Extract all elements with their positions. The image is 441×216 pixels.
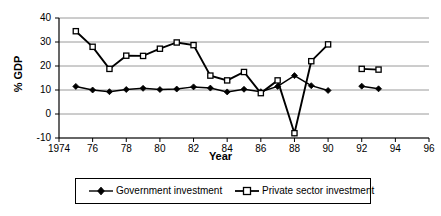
data-point <box>191 43 196 48</box>
series-line <box>76 31 328 133</box>
data-point <box>241 69 246 74</box>
legend-item-private: Private sector investment <box>234 183 374 199</box>
data-point <box>107 66 112 71</box>
data-point <box>73 83 79 89</box>
data-point <box>225 78 230 83</box>
data-point <box>191 84 197 90</box>
series-line <box>76 76 328 92</box>
data-point <box>325 42 330 47</box>
legend-label-government: Government investment <box>116 185 222 197</box>
data-point <box>258 91 263 96</box>
data-point <box>174 86 180 92</box>
chart-root: % GDP Year 403020100-10 1974767880828486… <box>0 0 441 216</box>
data-point <box>73 29 78 34</box>
data-point <box>124 53 129 58</box>
data-point <box>140 53 145 58</box>
data-point <box>123 87 129 93</box>
data-point <box>376 67 381 72</box>
data-point <box>309 59 314 64</box>
data-point <box>90 44 95 49</box>
data-point <box>174 40 179 45</box>
filled-diamond-icon <box>88 185 114 197</box>
data-point <box>241 86 247 92</box>
data-point <box>292 131 297 136</box>
legend-item-government: Government investment <box>88 183 222 199</box>
data-point <box>359 83 365 89</box>
data-point <box>90 87 96 93</box>
chart-legend: Government investment Private sector inv… <box>75 178 371 204</box>
line-chart: % GDP Year 403020100-10 1974767880828486… <box>0 0 441 216</box>
data-point <box>208 73 213 78</box>
data-point <box>359 66 364 71</box>
legend-label-private: Private sector investment <box>262 185 374 197</box>
data-point <box>275 78 280 83</box>
data-point <box>157 46 162 51</box>
data-point <box>376 86 382 92</box>
open-square-icon <box>234 185 260 197</box>
data-point <box>325 87 331 93</box>
data-point <box>157 87 163 93</box>
